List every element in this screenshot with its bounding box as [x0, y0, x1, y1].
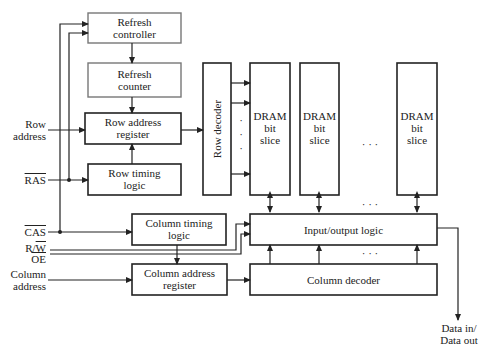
io-logic-label: Input/output logic: [250, 224, 437, 236]
dram-slice-2-label: DRAMbitslice: [300, 110, 339, 146]
diagram-canvas: [0, 0, 484, 345]
data-io-signal-label: Data in/Data out: [436, 322, 482, 345]
ras-to-refresh-line: [69, 33, 88, 180]
cas-to-refresh-line: [60, 24, 88, 232]
coldec-arrows-ellipsis: · · ·: [350, 247, 390, 259]
slices-ellipsis: · · ·: [350, 138, 390, 150]
refresh-controller-label: Refreshcontroller: [88, 16, 181, 40]
cas-junction-dot: [58, 230, 62, 234]
column-timing-logic-label: Column timinglogic: [132, 217, 226, 241]
oe-signal-label: OE: [0, 253, 46, 265]
ras-junction-dot: [67, 178, 71, 182]
column-decoder-label: Column decoder: [250, 274, 437, 286]
dram-slice-1-label: DRAMbitslice: [250, 110, 290, 146]
row-decoder-label: Row decoder: [211, 79, 223, 179]
dram-slice-n-label: DRAMbitslice: [397, 110, 437, 146]
row-address-register-label: Row addressregister: [85, 116, 181, 140]
io-arrows-ellipsis: · · ·: [350, 198, 390, 210]
row-address-signal-label: Rowaddress: [0, 118, 46, 142]
cas-signal-label: CAS: [0, 226, 46, 238]
ras-signal-label: RAS: [0, 174, 46, 186]
refresh-counter-label: Refreshcounter: [88, 68, 181, 92]
data-io-line: [437, 228, 458, 320]
column-address-signal-label: Columnaddress: [0, 268, 46, 292]
row-timing-logic-label: Row timinglogic: [88, 167, 181, 191]
column-address-register-label: Column addressregister: [132, 267, 227, 291]
row-lines-vdots: ···: [236, 113, 246, 155]
